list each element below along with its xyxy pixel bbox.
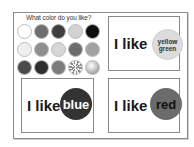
swatch-light-yellow[interactable] [51, 42, 66, 57]
card-blue: I like blue [21, 78, 94, 133]
badge-text: red [156, 97, 176, 112]
badge-text-line2: green [158, 45, 178, 52]
swatch-gold[interactable] [85, 60, 100, 75]
color-badge-blue: blue [60, 88, 92, 120]
swatch-black[interactable] [85, 24, 100, 39]
swatch-brown[interactable] [51, 60, 66, 75]
badge-text: blue [63, 97, 90, 112]
swatch-white[interactable] [17, 24, 32, 39]
card-prefix: I like [114, 97, 147, 114]
question-title: What color do you like? [26, 14, 91, 21]
badge-text-line1: yellow [158, 38, 178, 45]
swatch-yellow[interactable] [68, 24, 83, 39]
color-badge-red: red [150, 88, 182, 120]
swatch-silver[interactable] [68, 60, 83, 75]
card-prefix: I like [114, 35, 147, 52]
swatch-blue[interactable] [51, 24, 66, 39]
swatch-orange[interactable] [34, 42, 49, 57]
card-red: I like red [108, 78, 180, 133]
swatch-pink[interactable] [85, 42, 100, 57]
swatch-light-pink[interactable] [17, 42, 32, 57]
color-badge-yellow-green: yellow green [152, 29, 183, 60]
card-prefix: I like [27, 97, 60, 114]
swatch-dark-blue[interactable] [34, 60, 49, 75]
color-swatch-grid [17, 24, 101, 77]
swatch-purple[interactable] [17, 60, 32, 75]
card-yellow-green: I like yellow green [108, 16, 180, 71]
swatch-green[interactable] [68, 42, 83, 57]
swatch-red[interactable] [34, 24, 49, 39]
